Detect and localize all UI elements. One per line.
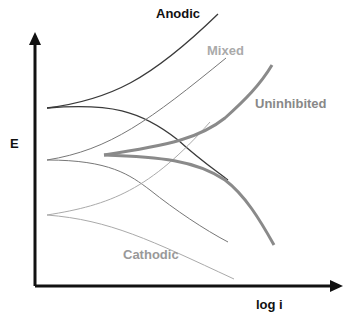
anodic-curve-up <box>47 14 218 108</box>
uninhibited-curve-down <box>104 155 274 245</box>
polarization-diagram <box>0 0 354 322</box>
x-axis-arrow-icon <box>330 280 343 292</box>
cathodic-curve-up <box>47 122 210 215</box>
x-axis-label: log i <box>256 297 283 312</box>
anodic-label: Anodic <box>156 6 200 21</box>
y-axis-arrow-icon <box>29 32 41 45</box>
mixed-label: Mixed <box>207 43 244 58</box>
cathodic-label: Cathodic <box>123 247 179 262</box>
uninhibited-curve-up <box>104 65 272 155</box>
uninhibited-label: Uninhibited <box>255 96 327 111</box>
mixed-curve-down <box>47 160 228 242</box>
mixed-curve-up <box>47 58 226 160</box>
y-axis-label: E <box>10 136 19 151</box>
